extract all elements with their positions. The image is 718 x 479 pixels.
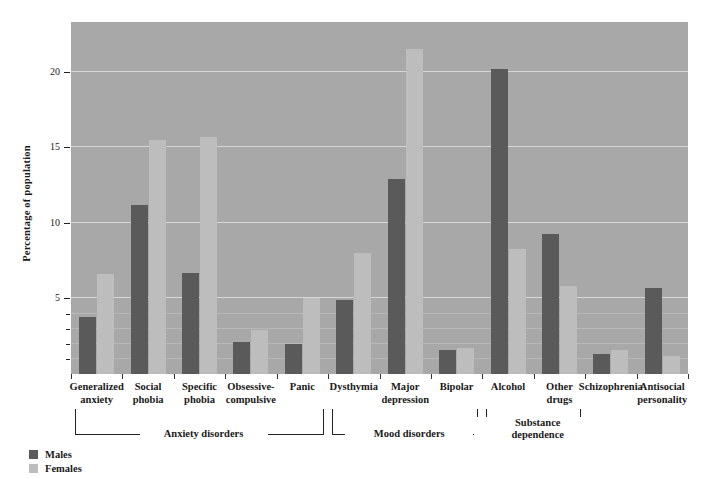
x-tick-0	[71, 374, 72, 379]
legend-label: Males	[45, 449, 72, 460]
legend-label: Females	[45, 463, 82, 474]
y-tick-label-5: 5	[32, 292, 60, 303]
bar-obsessive-compulsive-males	[233, 342, 250, 374]
bar-major-depression-females	[406, 49, 423, 374]
bar-specific-phobia-females	[200, 137, 217, 374]
bar-obsessive-compulsive-females	[251, 330, 268, 374]
bar-major-depression-males	[388, 179, 405, 374]
bar-alcohol-females	[509, 249, 526, 374]
legend-item-females: Females	[29, 462, 82, 475]
bar-panic-females	[303, 298, 320, 374]
bar-chart-figure: Percentage of population 5101520 General…	[0, 0, 718, 479]
x-tick-11	[637, 374, 638, 379]
bar-generalized-anxiety-females	[97, 274, 114, 374]
x-tick-2	[174, 374, 175, 379]
y-tick-minor-4	[66, 314, 70, 315]
x-tick-6	[380, 374, 381, 379]
y-tick-10	[64, 223, 70, 224]
bar-alcohol-males	[491, 69, 508, 374]
x-tick-3	[225, 374, 226, 379]
bar-dysthymia-males	[336, 300, 353, 374]
y-tick-minor-1	[66, 359, 70, 360]
legend-swatch-icon	[29, 450, 38, 459]
y-tick-minor-3	[66, 329, 70, 330]
x-tick-4	[277, 374, 278, 379]
x-tick-5	[328, 374, 329, 379]
bracket-label-mood-disorders: Mood disorders	[345, 428, 473, 440]
y-tick-label-10: 10	[32, 217, 60, 228]
y-tick-label-20: 20	[32, 66, 60, 77]
bracket-label-substance-dependence: Substancedependence	[474, 417, 602, 441]
bar-specific-phobia-males	[182, 273, 199, 374]
x-tick-9	[534, 374, 535, 379]
bar-social-phobia-males	[131, 205, 148, 374]
bar-bipolar-males	[439, 350, 456, 374]
bar-other-drugs-males	[542, 234, 559, 374]
chart-legend: MalesFemales	[29, 448, 82, 476]
bar-schizophrenia-males	[593, 354, 610, 374]
plot-area	[71, 22, 688, 374]
gridline-20	[71, 71, 688, 72]
bar-other-drugs-females	[560, 286, 577, 374]
bar-generalized-anxiety-males	[79, 317, 96, 374]
x-tick-8	[482, 374, 483, 379]
bar-panic-males	[285, 344, 302, 374]
x-tick-10	[585, 374, 586, 379]
y-tick-20	[64, 72, 70, 73]
bar-schizophrenia-females	[611, 350, 628, 374]
x-tick-7	[431, 374, 432, 379]
bar-antisocial-personality-females	[663, 356, 680, 374]
y-axis-label: Percentage of population	[21, 104, 32, 304]
legend-swatch-icon	[29, 464, 38, 473]
y-tick-minor-2	[66, 344, 70, 345]
bar-dysthymia-females	[354, 253, 371, 374]
y-tick-label-15: 15	[32, 141, 60, 152]
legend-item-males: Males	[29, 448, 82, 461]
x-tick-12	[688, 374, 689, 379]
bar-social-phobia-females	[149, 140, 166, 374]
category-label-antisocial-personality: Antisocialpersonality	[628, 381, 697, 406]
bracket-label-anxiety-disorders: Anxiety disorders	[140, 428, 268, 440]
x-tick-1	[122, 374, 123, 379]
y-tick-15	[64, 147, 70, 148]
bar-antisocial-personality-males	[645, 288, 662, 374]
bar-bipolar-females	[457, 348, 474, 374]
y-tick-5	[64, 298, 70, 299]
